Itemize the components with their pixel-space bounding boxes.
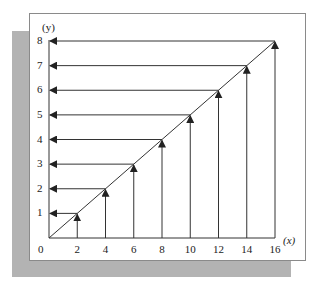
x-tick-label: 2: [75, 244, 81, 255]
y-tick-label: 4: [37, 134, 43, 145]
x-axis-label: (x): [283, 235, 295, 246]
y-tick-label: 8: [37, 35, 43, 46]
y-tick-label: 1: [37, 207, 43, 218]
x-tick-label: 4: [103, 244, 109, 255]
plot-group: [49, 40, 275, 238]
x-tick-label: 16: [270, 244, 281, 255]
x-tick-label: 8: [159, 244, 165, 255]
x-tick-label: 12: [213, 244, 224, 255]
x-tick-label: 6: [131, 244, 137, 255]
y-axis-label: (y): [42, 22, 55, 33]
origin-label: 0: [38, 244, 44, 255]
y-tick-label: 2: [37, 183, 43, 194]
x-tick-label: 14: [241, 244, 252, 255]
y-tick-label: 7: [37, 60, 43, 71]
x-tick-label: 10: [185, 244, 196, 255]
y-tick-label: 5: [37, 109, 43, 120]
y-tick-label: 6: [37, 84, 43, 95]
y-tick-label: 3: [37, 158, 43, 169]
